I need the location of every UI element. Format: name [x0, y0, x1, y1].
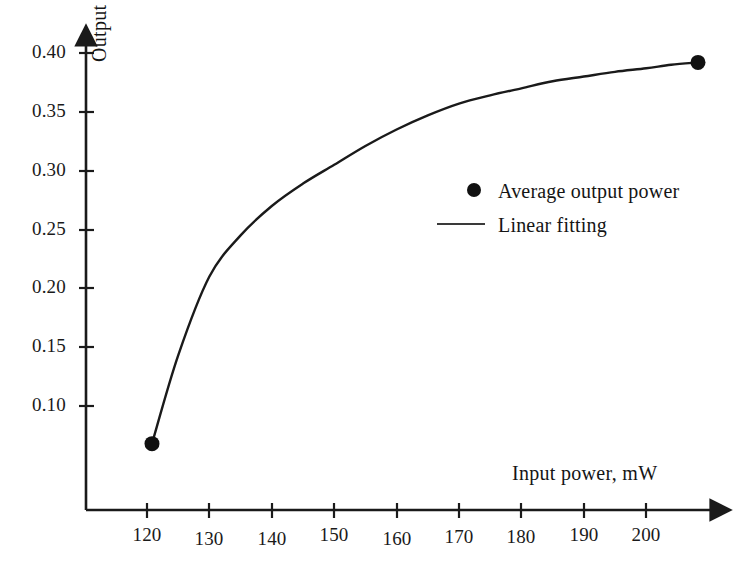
chart-legend: Average output power Linear fitting: [432, 178, 702, 246]
data-point-marker: [690, 55, 705, 70]
y-axis-title: Output power, mW: [88, 0, 111, 62]
y-tick-label: 0.35: [0, 100, 66, 122]
y-tick-label: 0.15: [0, 335, 66, 357]
legend-label: Linear fitting: [498, 214, 607, 237]
x-axis-title: Input power, mW: [512, 462, 657, 485]
legend-label: Average output power: [498, 180, 679, 203]
y-tick-label: 0.10: [0, 394, 66, 416]
x-tick-label: 190: [554, 524, 614, 546]
x-tick-label: 170: [429, 526, 489, 548]
plot-canvas: [0, 0, 742, 575]
x-tick-label: 180: [491, 526, 551, 548]
data-point-marker: [144, 436, 159, 451]
legend-line-marker-icon: [432, 212, 488, 246]
x-tick-label: 160: [367, 528, 427, 550]
y-tick-label: 0.30: [0, 159, 66, 181]
y-tick-label: 0.25: [0, 218, 66, 240]
x-tick-label: 150: [304, 524, 364, 546]
legend-item-linear-fitting: Linear fitting: [432, 212, 702, 246]
y-tick-label: 0.20: [0, 276, 66, 298]
x-tick-label: 200: [616, 524, 676, 546]
x-tick-label: 140: [242, 528, 302, 550]
series-line-linear-fitting: [152, 62, 698, 443]
x-tick-label: 130: [179, 528, 239, 550]
legend-item-average-output-power: Average output power: [432, 178, 702, 212]
x-tick-label: 120: [117, 524, 177, 546]
chart-figure: 0.40 0.35 0.30 0.25 0.20 0.15 0.10 120 1…: [0, 0, 742, 575]
y-tick-label: 0.40: [0, 41, 66, 63]
series-markers-average-output-power: [144, 55, 705, 451]
legend-dot-marker-icon: [432, 178, 488, 212]
